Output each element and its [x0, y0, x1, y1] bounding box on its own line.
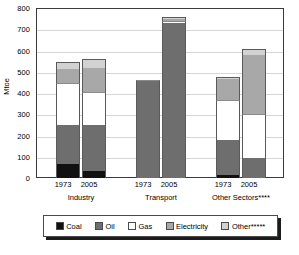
bar-segment-electricity — [242, 55, 266, 113]
y-axis-tick-label: 0 — [26, 174, 30, 183]
bar-segment-oil — [136, 81, 160, 178]
bar-segment-oil — [56, 125, 80, 164]
y-axis-tick-label: 600 — [17, 46, 30, 55]
y-axis-tick-label: 500 — [17, 67, 30, 76]
chart-legend: CoalOilGasElectricityOther***** — [43, 215, 278, 237]
bar-segment-electricity — [162, 19, 186, 21]
other-swatch — [221, 222, 229, 230]
oil-swatch — [95, 222, 103, 230]
coal-swatch — [56, 222, 64, 230]
x-axis-year-label: 2005 — [232, 180, 266, 189]
bar-segment-oil — [162, 23, 186, 178]
legend-item-label: Coal — [66, 222, 81, 231]
y-axis-tick-label: 700 — [17, 25, 30, 34]
bar-segment-electricity — [216, 79, 240, 100]
y-axis-tick-label: 100 — [17, 152, 30, 161]
legend-item[interactable]: Coal — [56, 222, 82, 231]
y-axis-title: Mtoe — [2, 67, 11, 107]
bar-segment-gas — [242, 114, 266, 158]
bar-segment-oil — [216, 140, 240, 175]
legend-item-label: Oil — [105, 222, 114, 231]
legend-item[interactable]: Gas — [128, 222, 152, 231]
gas-swatch — [128, 222, 136, 230]
bar-segment-coal — [56, 164, 80, 178]
legend-item-label: Other***** — [232, 222, 265, 231]
electricity-swatch — [166, 222, 174, 230]
bar-segment-gas — [56, 83, 80, 124]
bar-segment-electricity — [56, 69, 80, 83]
bar-segment-other — [56, 62, 80, 70]
legend-item-label: Gas — [138, 222, 152, 231]
bar-segment-gas — [136, 80, 160, 81]
chart-root: 0100200300400500600700800 Mtoe 197320051… — [0, 0, 299, 255]
bar-segment-other — [82, 59, 106, 68]
bar-segment-oil — [242, 158, 266, 178]
y-axis-tick-label: 800 — [17, 4, 30, 13]
bar-segment-electricity — [82, 68, 106, 92]
x-axis-group-label: Other Sectors**** — [191, 193, 291, 202]
bar-segment-other — [216, 77, 240, 79]
bar-segment-oil — [82, 125, 106, 171]
bar-segment-other — [242, 49, 266, 55]
legend-item-label: Electricity — [176, 222, 208, 231]
y-axis-tick-label: 200 — [17, 131, 30, 140]
x-axis: 197320051973200519732005IndustryTranspor… — [36, 180, 284, 210]
x-axis-year-label: 2005 — [72, 180, 106, 189]
bars-layer — [36, 8, 284, 178]
bar-segment-coal — [82, 171, 106, 178]
x-axis-year-label: 2005 — [152, 180, 186, 189]
legend-item[interactable]: Oil — [95, 222, 115, 231]
bar-segment-other — [162, 17, 186, 19]
bar-segment-gas — [162, 21, 186, 24]
legend-item[interactable]: Electricity — [166, 222, 209, 231]
y-axis-tick-label: 300 — [17, 110, 30, 119]
bar-segment-gas — [82, 92, 106, 125]
y-axis-tick-label: 400 — [17, 89, 30, 98]
bar-segment-coal — [216, 175, 240, 178]
bar-segment-gas — [216, 100, 240, 139]
legend-item[interactable]: Other***** — [221, 222, 265, 231]
